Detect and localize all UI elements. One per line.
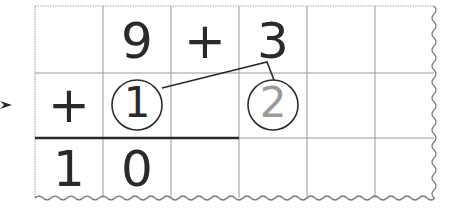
circled-two: 2 — [239, 82, 307, 124]
cell-r2-c1: + — [35, 80, 103, 130]
cell-r1-c4: 3 — [239, 16, 307, 66]
cell-r1-c3: + — [171, 16, 239, 66]
circled-one: 1 — [103, 82, 171, 124]
cell-r3-c1: 1 — [35, 144, 103, 194]
cell-r1-c2: 9 — [103, 16, 171, 66]
right-wavy-edge — [432, 6, 436, 198]
cell-r3-c2: 0 — [103, 144, 171, 194]
arrow-pointer-icon — [0, 101, 12, 109]
addition-worksheet: 9 + 3 + 1 2 1 0 — [0, 0, 464, 212]
